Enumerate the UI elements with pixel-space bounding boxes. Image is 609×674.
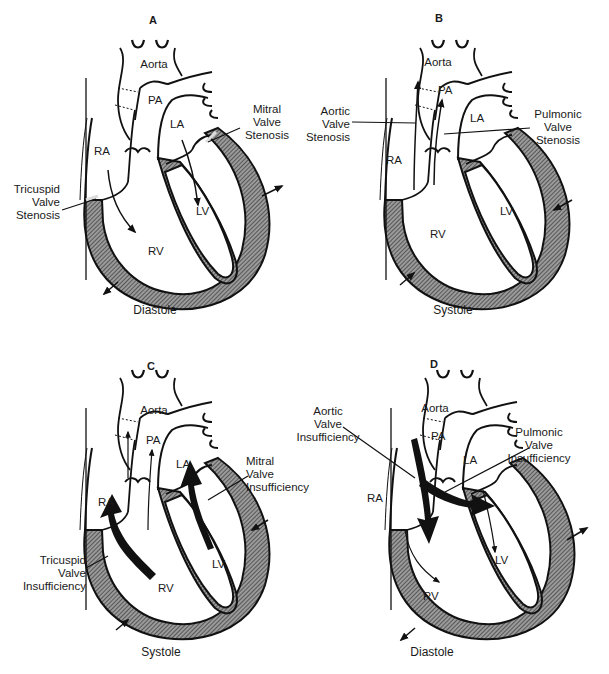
callout-aortic-valve-stenosis: Aortic Valve Stenosis	[300, 105, 350, 144]
phase-caption: Systole	[418, 304, 488, 317]
callout-pulmonic-valve-stenosis: Pulmonic Valve Stenosis	[528, 108, 588, 147]
panel-b: B Aorta PA LA RA LV RV Aortic Valve Sten…	[300, 0, 604, 337]
label-la: LA	[176, 458, 190, 471]
heart-diagram-a	[0, 0, 304, 337]
label-la: LA	[170, 118, 184, 131]
label-aorta: Aorta	[418, 56, 458, 69]
label-ra: RA	[98, 496, 114, 509]
panel-a: A Aorta PA LA RA LV RV Tricuspid Valve S…	[0, 0, 304, 337]
callout-leader	[352, 122, 416, 123]
panel-d: D Aorta PA LA RA LV RV Aortic Valve Insu…	[305, 330, 609, 667]
label-ra: RA	[386, 154, 402, 167]
heart-diagram-c	[0, 330, 304, 667]
label-la: LA	[463, 454, 477, 467]
callout-tricuspid-valve-insufficiency: Tricuspid Valve Insufficiency	[10, 554, 86, 593]
label-pa: PA	[431, 430, 446, 443]
label-pa: PA	[146, 434, 161, 447]
callout-tricuspid-valve-stenosis: Tricuspid Valve Stenosis	[4, 183, 60, 222]
label-lv: LV	[495, 554, 508, 567]
panel-letter: D	[427, 358, 441, 371]
panel-letter: A	[146, 14, 160, 27]
phase-caption: Diastole	[397, 646, 467, 659]
label-rv: RV	[158, 582, 174, 595]
label-ra: RA	[367, 492, 383, 505]
label-aorta: Aorta	[415, 402, 455, 415]
heart-diagram-d	[305, 330, 609, 667]
panel-c: C Aorta PA LA RA LV RV Mitral Valve Insu…	[0, 330, 304, 667]
label-lv: LV	[500, 205, 513, 218]
label-rv: RV	[148, 245, 164, 258]
panel-letter: C	[144, 360, 158, 373]
label-la: LA	[470, 112, 484, 125]
flow-arrow	[148, 450, 152, 530]
phase-caption: Diastole	[120, 304, 190, 317]
callout-mitral-valve-stenosis: Mitral Valve Stenosis	[236, 103, 298, 142]
callout-pulmonic-valve-insufficiency: Pulmonic Valve Insufficiency	[501, 426, 577, 465]
label-lv: LV	[196, 205, 209, 218]
label-rv: RV	[423, 590, 439, 603]
label-aorta: Aorta	[134, 404, 174, 417]
label-lv: LV	[212, 558, 225, 571]
label-rv: RV	[430, 228, 446, 241]
label-pa: PA	[148, 94, 163, 107]
label-pa: PA	[438, 84, 453, 97]
wall-motion-arrow	[401, 628, 415, 640]
flow-arrow-rv-aorta	[414, 82, 418, 190]
callout-aortic-valve-insufficiency: Aortic Valve Insufficiency	[291, 405, 365, 444]
label-ra: RA	[94, 145, 110, 158]
label-aorta: Aorta	[134, 58, 174, 71]
phase-caption: Systole	[126, 646, 196, 659]
heart-diagram-b	[300, 0, 604, 337]
panel-letter: B	[432, 12, 446, 25]
flow-arrow-ra-rv	[108, 170, 135, 232]
